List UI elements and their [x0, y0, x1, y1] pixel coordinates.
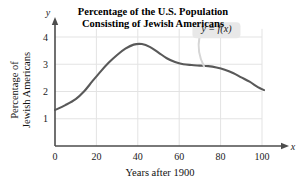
- x-tick-labels: 020406080100: [53, 151, 270, 162]
- chart-figure: 020406080100 1234 Percentage of the U.S.…: [0, 0, 307, 182]
- y-tick-labels: 1234: [43, 32, 48, 125]
- y-tick-label: 1: [43, 113, 48, 124]
- x-tick-label: 20: [91, 151, 101, 162]
- y-tick-label: 2: [43, 86, 48, 97]
- x-tick-label: 80: [216, 151, 226, 162]
- y-tick-label: 3: [43, 59, 48, 70]
- callout-pointer-line: [199, 37, 204, 66]
- y-axis-arrow-icon: [52, 17, 58, 25]
- y-axis-label-line-1: Percentage of: [9, 61, 20, 119]
- chart-title-line-1: Percentage of the U.S. Population: [78, 6, 228, 17]
- y-axis-variable-name: y: [45, 7, 51, 18]
- callout-label: y = f(x): [200, 23, 232, 35]
- y-tick-label: 4: [43, 32, 48, 43]
- chart-canvas: 020406080100 1234 Percentage of the U.S.…: [0, 0, 307, 182]
- x-tick-label: 0: [53, 151, 58, 162]
- x-axis-arrow-icon: [281, 143, 289, 149]
- x-axis-variable-name: x: [290, 141, 296, 152]
- x-tick-label: 40: [133, 151, 143, 162]
- data-series-curve: [55, 44, 264, 110]
- grid-lines: [55, 29, 262, 146]
- x-tick-label: 100: [255, 151, 270, 162]
- x-axis-label: Years after 1900: [126, 167, 195, 178]
- x-tick-label: 60: [174, 151, 184, 162]
- y-axis-label-line-2: Jewish Americans: [21, 52, 32, 128]
